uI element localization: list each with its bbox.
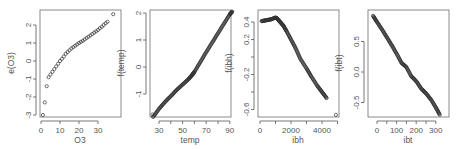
panel-o3: -3-2-1012 0102030 O3 e(O3): [6, 10, 121, 145]
x-tick-label: 300: [429, 126, 443, 135]
y-axis-label: e(O3): [6, 52, 16, 74]
x-tick-label: 10: [56, 126, 65, 135]
y-tick-label: -2: [24, 93, 33, 101]
x-axis-label: O3: [74, 135, 86, 145]
x-tick-label: 30: [155, 126, 164, 135]
y-tick-label: 0: [24, 58, 33, 63]
y-tick-label: 1: [24, 40, 33, 45]
plot-frame: [258, 10, 339, 117]
panel-temp: -1012 30507090 temp f(temp): [116, 10, 235, 145]
x-tick-label: 0: [39, 126, 44, 135]
x-tick-label: 100: [390, 126, 404, 135]
x-tick-label: 200: [410, 126, 424, 135]
y-axis: -3-2-1012: [24, 22, 36, 118]
y-tick-label: -1: [24, 75, 33, 83]
panel-ibt: -0.50.00.5 0100200300 ibt f(ibt): [334, 10, 449, 145]
y-tick-label: -1: [134, 90, 143, 98]
x-axis-label: ibt: [404, 135, 414, 145]
data-points: [260, 16, 338, 116]
y-tick-label: 0.0: [352, 66, 361, 78]
plot-frame: [40, 10, 121, 117]
y-axis-label: f(temp): [116, 49, 126, 76]
data-points: [372, 14, 442, 116]
data-point: [66, 50, 69, 53]
y-axis: -0.50.00.5: [352, 35, 364, 109]
y-tick-label: 0.5: [352, 35, 361, 47]
y-tick-label: -3: [24, 111, 33, 119]
y-tick-label: -0.6: [242, 102, 251, 116]
x-axis: 0102030: [39, 121, 103, 135]
plot-frame: [150, 10, 231, 117]
x-tick-label: 70: [202, 126, 211, 135]
x-tick-label: 2000: [282, 126, 300, 135]
data-point: [334, 113, 337, 116]
x-tick-label: 0: [375, 126, 380, 135]
data-points: [151, 10, 234, 119]
x-tick-label: 90: [225, 126, 234, 135]
y-tick-label: 2: [134, 10, 143, 15]
data-point: [45, 85, 48, 88]
x-tick-label: 20: [75, 126, 84, 135]
y-tick-label: 0: [134, 64, 143, 69]
x-axis: 020004000: [258, 121, 338, 135]
data-point: [64, 52, 67, 55]
x-tick-label: 50: [178, 126, 187, 135]
y-tick-label: 0.2: [242, 33, 251, 45]
panel-ibh: -0.6-0.20.20.4 020004000 ibh f(ibh): [224, 10, 339, 145]
x-axis: 0100200300: [375, 121, 443, 135]
y-axis: -0.6-0.20.20.4: [242, 16, 254, 117]
y-tick-label: -0.5: [352, 95, 361, 109]
y-tick-label: 2: [24, 22, 33, 27]
x-tick-label: 4000: [313, 126, 331, 135]
y-axis: -1012: [134, 10, 146, 97]
y-axis-label: f(ibt): [334, 54, 344, 71]
data-point: [43, 101, 46, 104]
x-tick-label: 0: [258, 126, 263, 135]
x-axis-label: temp: [181, 135, 200, 145]
data-point: [68, 49, 71, 52]
x-tick-label: 30: [94, 126, 103, 135]
x-axis-label: ibh: [292, 135, 304, 145]
data-points: [41, 13, 114, 117]
data-point: [102, 23, 105, 26]
x-axis: 30507090: [155, 121, 235, 135]
y-tick-label: 1: [134, 37, 143, 42]
y-tick-label: 0.4: [242, 16, 251, 28]
data-point: [41, 113, 44, 116]
y-axis-label: f(ibh): [224, 53, 234, 73]
y-tick-label: -0.2: [242, 67, 251, 81]
data-point: [112, 13, 115, 16]
gam-partial-plots: -3-2-1012 0102030 O3 e(O3) -1012 3050709…: [0, 0, 461, 149]
